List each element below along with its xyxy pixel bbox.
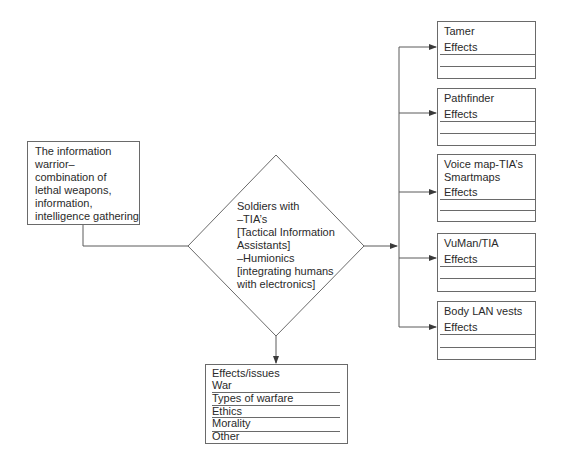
effects-label: Effects bbox=[444, 41, 477, 54]
node-effects-issues: Effects/issues War Types of warfare Ethi… bbox=[205, 364, 348, 444]
connector-source-to-center bbox=[83, 224, 188, 246]
node-title: Body LAN vests bbox=[444, 305, 522, 318]
effects-rule bbox=[440, 334, 535, 335]
source-line: The information bbox=[35, 145, 111, 158]
issue-item: War bbox=[212, 379, 232, 392]
effects-rule bbox=[440, 121, 535, 122]
effects-label: Effects bbox=[444, 186, 477, 199]
center-line: –Humionics bbox=[237, 252, 294, 265]
source-line: combination of bbox=[35, 171, 107, 184]
node-title: Pathfinder bbox=[444, 92, 494, 105]
center-line: Assistants] bbox=[237, 239, 290, 252]
effects-rule bbox=[440, 133, 535, 134]
issue-item: Morality bbox=[212, 417, 251, 430]
node-voice-map: Voice map-TIA’s Smartmaps Effects bbox=[437, 154, 536, 222]
effects-rule bbox=[440, 278, 535, 279]
source-line: warrior– bbox=[35, 158, 75, 171]
node-title: VuMan/TIA bbox=[444, 237, 499, 250]
source-node: The information warrior– combination of … bbox=[27, 141, 140, 225]
effects-rule bbox=[440, 266, 535, 267]
effects-rule bbox=[440, 347, 535, 348]
issue-item: Other bbox=[212, 430, 240, 443]
issue-item: Types of warfare bbox=[212, 392, 293, 405]
node-title: Tamer bbox=[444, 25, 475, 38]
effects-label: Effects bbox=[444, 253, 477, 266]
center-line: –TIA’s bbox=[237, 213, 267, 226]
center-line: [Tactical Information bbox=[237, 226, 335, 239]
node-vuman: VuMan/TIA Effects bbox=[437, 233, 536, 292]
center-line: Soldiers with bbox=[237, 200, 299, 213]
source-line: information, bbox=[35, 197, 92, 210]
node-pathfinder: Pathfinder Effects bbox=[437, 88, 536, 146]
source-line: intelligence gathering bbox=[35, 210, 139, 223]
effects-rule bbox=[440, 66, 535, 67]
effects-rule bbox=[440, 210, 535, 211]
effects-label: Effects bbox=[444, 108, 477, 121]
center-line: [integrating humans bbox=[237, 265, 334, 278]
flow-diagram: The information warrior– combination of … bbox=[0, 0, 563, 465]
center-line: with electronics] bbox=[237, 278, 315, 291]
source-line: lethal weapons, bbox=[35, 184, 111, 197]
node-title: Smartmaps bbox=[444, 171, 500, 184]
effects-rule bbox=[440, 199, 535, 200]
effects-rule bbox=[440, 54, 535, 55]
effects-label: Effects bbox=[444, 321, 477, 334]
node-title: Voice map-TIA’s bbox=[444, 158, 523, 171]
node-tamer: Tamer Effects bbox=[437, 21, 536, 79]
node-body-lan-vests: Body LAN vests Effects bbox=[437, 301, 536, 360]
